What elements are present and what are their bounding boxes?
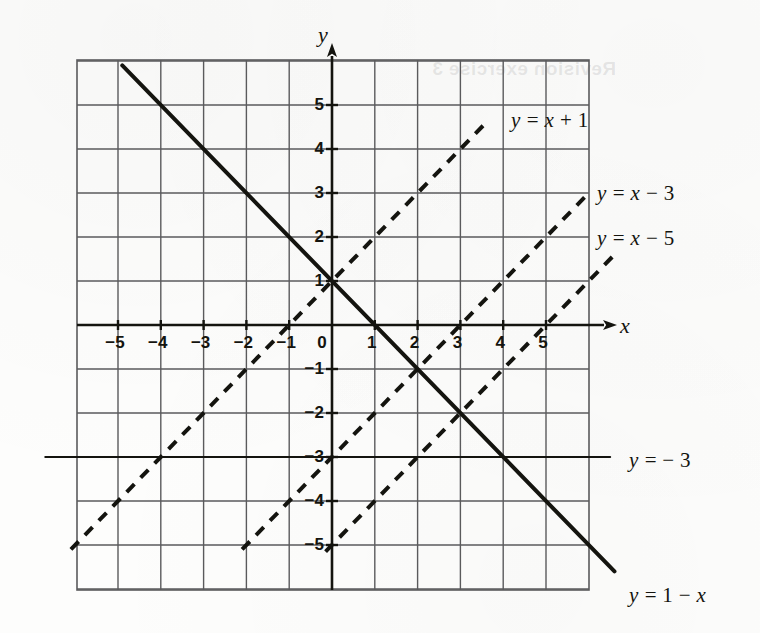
axis-lines [77,56,604,590]
plot-line [326,257,613,552]
y-tick-label: −3 [294,447,324,467]
y-tick-label: 1 [294,271,324,291]
x-tick-label: 4 [483,333,517,353]
x-tick-label: −5 [98,333,132,353]
x-tick-label: −1 [269,333,303,353]
x-tick-label: 5 [526,333,560,353]
x-tick-label: 3 [440,333,474,353]
coordinate-plot [0,0,760,633]
equation-label: y = x − 3 [597,181,675,206]
equation-label: y = − 3 [629,448,691,473]
y-tick-label: 3 [294,183,324,203]
graph-figure: Revision exercise 3 −5−4−3−2−10123455432… [0,0,760,633]
y-axis-name: y [318,22,328,48]
x-tick-label: −2 [226,333,260,353]
equation-label: y = 1 − x [629,583,707,608]
equation-label: y = x − 5 [597,226,675,251]
y-tick-label: −1 [294,359,324,379]
y-tick-label: −4 [294,491,324,511]
plot-line [122,65,614,571]
equation-label: y = x + 1 [511,108,589,133]
x-tick-label: −4 [141,333,175,353]
y-tick-label: −5 [294,535,324,555]
x-tick-label: −3 [184,333,218,353]
y-tick-label: 5 [294,95,324,115]
y-tick-label: 2 [294,227,324,247]
x-tick-label: 1 [355,333,389,353]
x-tick-label: 0 [305,333,339,353]
x-axis-name: x [620,313,630,339]
y-tick-label: 4 [294,139,324,159]
y-tick-label: −2 [294,403,324,423]
plotted-lines [45,65,614,571]
x-tick-label: 2 [398,333,432,353]
